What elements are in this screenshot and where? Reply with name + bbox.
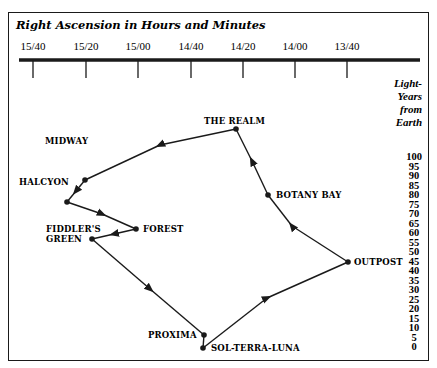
- label-the-realm: THE REALM: [204, 116, 266, 126]
- route-chart: Right Ascension in Hours and Minutes 15/…: [0, 0, 437, 368]
- label-halcyon: HALCYON: [19, 177, 69, 187]
- x-tick-label: 14/00: [282, 40, 308, 52]
- label-fiddlers-green-2: GREEN: [46, 234, 82, 244]
- point-outpost: [345, 259, 351, 265]
- label-botany-bay: BOTANY BAY: [276, 190, 342, 200]
- place-labels: THE REALM MIDWAY HALCYON BOTANY BAY FORE…: [19, 116, 403, 353]
- x-tick-label: 13/40: [334, 40, 360, 52]
- point-the-realm: [233, 126, 239, 132]
- route-path: [67, 129, 348, 348]
- label-forest: FOREST: [143, 224, 184, 234]
- label-proxima: PROXIMA: [148, 330, 197, 340]
- svg-text:Years: Years: [398, 90, 422, 102]
- y-axis-labels: 100 95 90 85 80 75 70 65 60 55 50 45 40 …: [406, 151, 422, 352]
- svg-text:0: 0: [411, 341, 416, 352]
- point-sol-terra-luna: [200, 345, 206, 351]
- y-axis-title: Light- Years from Earth: [393, 77, 423, 128]
- label-fiddlers-green-1: FIDDLER'S: [46, 224, 101, 234]
- x-tick-label: 15/00: [125, 40, 151, 52]
- x-axis-ticks: [33, 60, 347, 78]
- x-tick-label: 14/20: [230, 40, 256, 52]
- x-axis-labels: 15/40 15/20 15/00 14/40 14/20 14/00 13/4…: [20, 40, 360, 52]
- route-points: [64, 126, 351, 351]
- x-tick-label: 15/40: [20, 40, 46, 52]
- chart-title: Right Ascension in Hours and Minutes: [15, 18, 266, 32]
- point-halcyon: [64, 199, 70, 205]
- svg-text:from: from: [400, 103, 422, 115]
- point-fiddlers-green: [89, 236, 95, 242]
- label-sol-terra-luna: SOL-TERRA-LUNA: [211, 343, 300, 353]
- label-outpost: OUTPOST: [354, 257, 403, 267]
- point-forest: [133, 226, 139, 232]
- svg-text:Light-: Light-: [393, 77, 422, 89]
- svg-text:Earth: Earth: [395, 116, 422, 128]
- point-proxima: [201, 332, 207, 338]
- point-botany-bay: [265, 192, 271, 198]
- point-midway: [82, 177, 88, 183]
- x-tick-label: 15/20: [73, 40, 99, 52]
- x-tick-label: 14/40: [178, 40, 204, 52]
- label-midway: MIDWAY: [45, 136, 89, 146]
